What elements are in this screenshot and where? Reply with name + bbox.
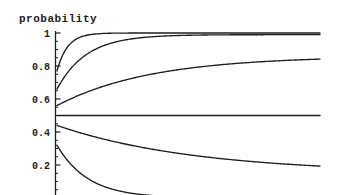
y-tick-label: 0.2	[32, 161, 50, 172]
plot-area: probability 10.80.60.40.2	[0, 0, 345, 195]
curve-start-0.77	[57, 33, 320, 71]
y-tick-label: 0.4	[32, 128, 50, 139]
curve-start-0.66	[57, 35, 320, 89]
y-tick-label: 0.8	[32, 62, 50, 73]
probability-chart: 10.80.60.40.2	[0, 0, 345, 195]
curve-start-0.56	[57, 59, 320, 105]
y-tick-label: 1	[44, 29, 50, 40]
curve-start-0.44	[57, 125, 320, 166]
y-tick-label: 0.6	[32, 95, 50, 106]
curve-start-0.32	[57, 145, 152, 195]
